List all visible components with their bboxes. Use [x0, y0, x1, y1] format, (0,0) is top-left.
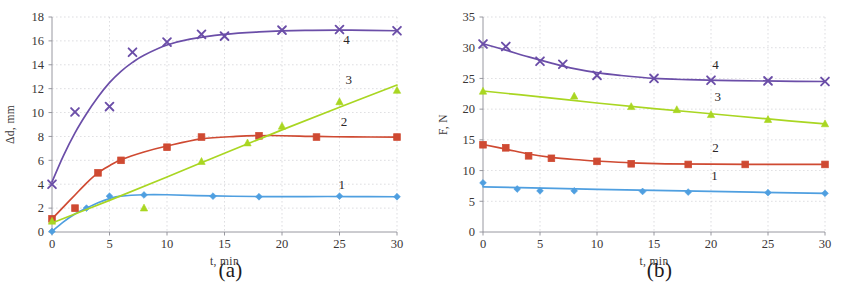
y-tick-label: 15 [463, 133, 476, 147]
series-label-1: 1 [711, 168, 718, 183]
series-3-marker [336, 98, 343, 105]
series-2-marker [594, 158, 601, 165]
series-1 [483, 187, 825, 193]
series-2-marker [480, 141, 487, 148]
series-1-marker [822, 190, 829, 197]
series-2-marker [394, 134, 401, 141]
series-label-3: 3 [345, 72, 352, 87]
series-2-marker [525, 153, 532, 160]
y-tick-label: 25 [463, 72, 476, 86]
series-3 [483, 91, 825, 124]
x-tick-label: 15 [218, 237, 231, 251]
series-3-marker [140, 204, 147, 211]
series-4-marker [502, 43, 510, 51]
y-tick-label: 35 [463, 10, 476, 24]
y-tick-label: 10 [463, 164, 476, 178]
series-1-marker [141, 192, 148, 199]
series-2-marker [72, 205, 79, 212]
series-label-2: 2 [341, 114, 348, 129]
series-label-1: 1 [339, 177, 346, 192]
series-2-marker [822, 161, 829, 168]
panel-b: 05101520253005101520253035t, minF, N1234… [425, 0, 850, 300]
series-1-marker [514, 186, 521, 193]
series-2-marker [164, 144, 171, 151]
panel-b-caption: (b) [447, 258, 850, 283]
x-tick-label: 30 [391, 237, 404, 251]
x-tick-label: 5 [106, 237, 112, 251]
series-3-marker [393, 86, 400, 93]
y-tick-label: 0 [469, 225, 475, 239]
y-tick-label: 5 [469, 195, 475, 209]
gridlines [483, 17, 825, 232]
y-tick-label: 10 [32, 106, 45, 120]
series-2-marker [198, 134, 205, 141]
x-tick-label: 0 [49, 237, 55, 251]
series-1-curve [483, 187, 825, 193]
tick-labels: 05101520253005101520253035 [463, 10, 832, 251]
chart-a-canvas: 051015202530024681012141618t, minΔd, mm1… [0, 0, 425, 300]
series-1-marker [394, 193, 401, 200]
chart-b-canvas: 05101520253005101520253035t, minF, N1234 [425, 0, 850, 300]
series-2-marker [95, 170, 102, 177]
x-tick-label: 10 [591, 237, 604, 251]
y-tick-label: 8 [38, 130, 44, 144]
x-tick-label: 20 [705, 237, 718, 251]
series-1-marker [210, 193, 217, 200]
series-2-marker [118, 157, 125, 164]
x-tick-label: 25 [762, 237, 775, 251]
x-tick-label: 0 [480, 237, 486, 251]
series-4-marker [559, 60, 567, 68]
y-tick-label: 14 [32, 58, 45, 72]
series-2-marker [313, 134, 320, 141]
series-2-marker [742, 161, 749, 168]
series-label-2: 2 [712, 140, 719, 155]
series-2-marker [685, 161, 692, 168]
y-tick-label: 30 [463, 41, 476, 55]
series-1-marker [480, 179, 487, 186]
series-3-marker [571, 92, 578, 99]
figure-two-panel: 051015202530024681012141618t, minΔd, mm1… [0, 0, 850, 300]
axes [480, 17, 826, 236]
series-label-3: 3 [715, 89, 722, 104]
y-axis-title: Δd, mm [4, 105, 17, 144]
series-3-curve [483, 91, 825, 124]
y-tick-label: 12 [32, 82, 45, 96]
series-1-marker [336, 193, 343, 200]
series-2-marker [628, 161, 635, 168]
series-label-4: 4 [343, 32, 350, 47]
series-1-marker [256, 193, 263, 200]
y-tick-label: 4 [38, 178, 45, 192]
panel-a-caption: (a) [18, 258, 443, 283]
y-tick-label: 0 [38, 225, 44, 239]
x-tick-label: 30 [819, 237, 832, 251]
y-axis-title: F, N [437, 114, 450, 135]
series-1-marker [765, 189, 772, 196]
y-tick-label: 16 [32, 34, 45, 48]
panel-a: 051015202530024681012141618t, minΔd, mm1… [0, 0, 425, 300]
y-tick-label: 2 [38, 201, 44, 215]
x-tick-label: 15 [648, 237, 661, 251]
series-label-4: 4 [712, 57, 719, 72]
series-4-marker [129, 48, 137, 56]
series-2-marker [503, 145, 510, 152]
series-1-marker [685, 189, 692, 196]
series-3-marker [278, 122, 285, 129]
y-tick-label: 6 [38, 154, 44, 168]
series-2-marker [548, 155, 555, 162]
y-tick-label: 20 [463, 102, 476, 116]
y-tick-label: 18 [32, 10, 45, 24]
x-tick-label: 5 [537, 237, 543, 251]
series-1-marker [639, 188, 646, 195]
x-tick-label: 10 [161, 237, 174, 251]
x-tick-label: 25 [333, 237, 346, 251]
series-4-marker [71, 108, 79, 116]
x-tick-label: 20 [276, 237, 289, 251]
